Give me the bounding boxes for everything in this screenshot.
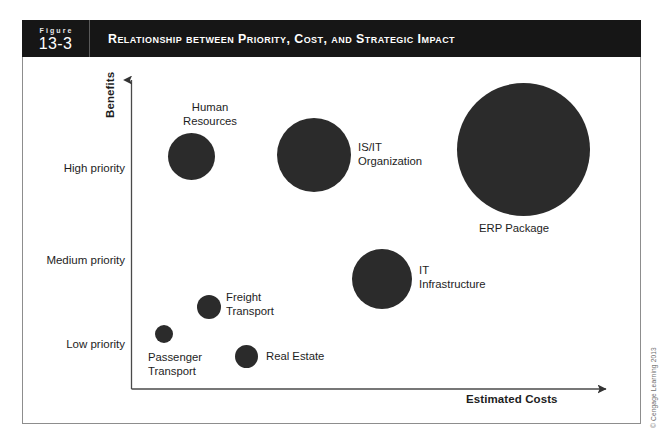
bubble-passenger-transport[interactable] [155, 325, 173, 343]
y-axis-label: Benefits [104, 72, 116, 118]
figure-title: Relationship between Priority, Cost, and… [90, 20, 641, 57]
bubble-isit-organization[interactable] [277, 118, 351, 192]
bubble-label-erp-package: ERP Package [479, 222, 549, 236]
figure-container: Figure 13-3 Relationship between Priorit… [0, 0, 663, 439]
bubble-label-isit-organization: IS/IT Organization [358, 141, 422, 168]
bubble-it-infrastructure[interactable] [352, 249, 412, 309]
bubble-label-human-resources: Human Resources [175, 101, 245, 128]
y-tick-label: High priority [64, 162, 125, 174]
bubble-erp-package[interactable] [457, 83, 590, 216]
figure-word-label: Figure [38, 26, 74, 35]
x-axis-label: Estimated Costs [466, 393, 558, 405]
bubble-freight-transport[interactable] [197, 295, 221, 319]
figure-header: Figure 13-3 Relationship between Priorit… [22, 20, 641, 57]
bubble-label-real-estate: Real Estate [266, 350, 324, 364]
bubble-label-freight-transport: Freight Transport [226, 291, 274, 318]
bubble-label-passenger-transport: Passenger Transport [148, 351, 202, 378]
y-tick-label: Low priority [66, 338, 125, 350]
bubble-real-estate[interactable] [235, 345, 258, 368]
copyright-credit: © Cengage Learning 2013 [650, 347, 657, 428]
figure-number: 13-3 [39, 35, 73, 53]
bubble-human-resources[interactable] [168, 133, 215, 180]
bubble-label-it-infrastructure: IT Infrastructure [419, 264, 486, 291]
y-tick-label: Medium priority [46, 254, 125, 266]
figure-number-block: Figure 13-3 [22, 20, 90, 57]
